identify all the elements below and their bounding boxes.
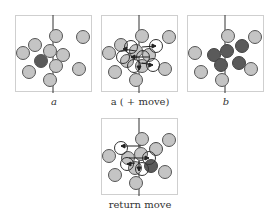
caption-b: b bbox=[176, 96, 276, 107]
particle-config-b bbox=[187, 13, 265, 93]
panel-b bbox=[187, 13, 265, 93]
particle-config-a-move bbox=[101, 13, 179, 93]
panel-a-move bbox=[101, 13, 179, 93]
caption-a-move: a ( + move) bbox=[90, 96, 190, 107]
caption-a: a bbox=[4, 96, 104, 107]
panel-a bbox=[15, 13, 93, 93]
caption-return-move: return move bbox=[90, 199, 190, 210]
caption-a-move-text: a ( + move) bbox=[111, 96, 170, 107]
particle-config-a bbox=[15, 13, 93, 93]
particle-config-return-move bbox=[101, 116, 179, 196]
panel-return-move bbox=[101, 116, 179, 196]
